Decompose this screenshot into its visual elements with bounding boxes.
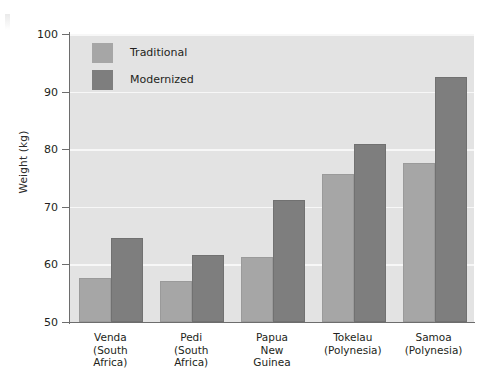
gridline	[70, 34, 474, 36]
x-tick-label-line: Africa)	[145, 356, 237, 369]
bar-traditional	[79, 278, 111, 322]
bar-traditional	[322, 174, 354, 322]
bar-chart-figure: Weight (kg) 5060708090100 Traditional Mo…	[0, 0, 477, 377]
y-tick-mark	[62, 92, 70, 93]
gridline	[70, 149, 474, 151]
y-tick-mark	[62, 264, 70, 265]
bar-modernized	[192, 255, 224, 322]
x-tick-label-line: New	[226, 344, 318, 357]
x-tick-label: Pedi(SouthAfrica)	[145, 331, 237, 369]
x-tick-label-line: Samoa	[388, 331, 477, 344]
y-axis-line	[69, 32, 70, 324]
x-tick-label-line: Guinea	[226, 356, 318, 369]
legend-item-traditional: Traditional	[92, 41, 194, 64]
bar-traditional	[241, 257, 273, 322]
legend-swatch-modernized	[92, 70, 113, 90]
y-tick-mark	[62, 149, 70, 150]
bar-modernized	[273, 200, 305, 322]
x-tick-label-line: (Polynesia)	[307, 344, 399, 357]
bar-modernized	[435, 77, 467, 322]
y-tick-label: 70	[18, 200, 58, 213]
y-tick-label: 80	[18, 143, 58, 156]
bar-modernized	[354, 144, 386, 322]
x-tick-label: PapuaNewGuinea	[226, 331, 318, 369]
x-tick-label: Samoa(Polynesia)	[388, 331, 477, 356]
x-tick-label-line: Tokelau	[307, 331, 399, 344]
chart-legend: Traditional Modernized	[92, 41, 194, 95]
bar-modernized	[111, 238, 143, 322]
x-tick-label-line: Venda	[64, 331, 156, 344]
x-tick-label-line: (South	[64, 344, 156, 357]
bar-traditional	[403, 163, 435, 322]
x-tick-label: Venda(SouthAfrica)	[64, 331, 156, 369]
y-tick-label: 60	[18, 258, 58, 271]
legend-label-traditional: Traditional	[130, 46, 187, 59]
bar-traditional	[160, 281, 192, 322]
y-tick-mark	[62, 207, 70, 208]
y-tick-label: 50	[18, 316, 58, 329]
legend-item-modernized: Modernized	[92, 68, 194, 91]
y-tick-label: 90	[18, 85, 58, 98]
y-tick-mark	[62, 34, 70, 35]
legend-swatch-traditional	[92, 43, 113, 63]
x-tick-label-line: Pedi	[145, 331, 237, 344]
y-tick-label: 100	[18, 28, 58, 41]
y-tick-mark	[62, 322, 70, 323]
scan-artifact	[5, 14, 10, 30]
x-tick-label-line: Papua	[226, 331, 318, 344]
x-axis-line	[69, 322, 475, 323]
x-tick-label-line: (Polynesia)	[388, 344, 477, 357]
x-tick-label-line: (South	[145, 344, 237, 357]
x-tick-label: Tokelau(Polynesia)	[307, 331, 399, 356]
legend-label-modernized: Modernized	[130, 73, 194, 86]
x-tick-label-line: Africa)	[64, 356, 156, 369]
